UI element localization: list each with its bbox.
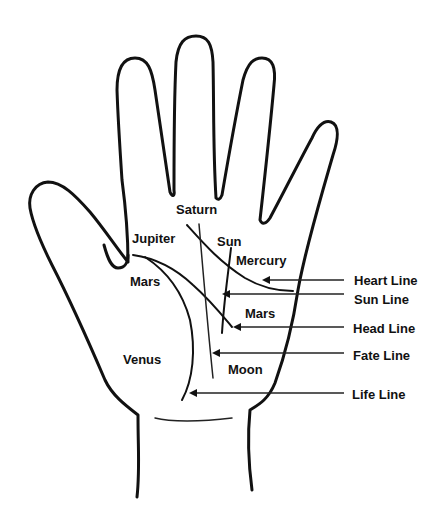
mount-sun-label: Sun (217, 234, 242, 249)
mount-venus-label: Venus (123, 352, 161, 367)
head-line (133, 255, 232, 327)
head-line-pointer (233, 323, 344, 331)
mount-moon-label: Moon (228, 362, 263, 377)
mount-mars-inner-label: Mars (130, 274, 160, 289)
palm-diagram: Saturn Jupiter Sun Mercury Mars Mars Ven… (0, 0, 446, 505)
mount-mars-outer-label: Mars (245, 306, 275, 321)
fate-line-label: Fate Line (353, 348, 410, 363)
mount-jupiter-label: Jupiter (132, 231, 175, 246)
heart-line-label: Heart Line (354, 273, 418, 288)
life-line-label: Life Line (352, 387, 405, 402)
fate-line (199, 224, 213, 378)
wrist-crease (155, 418, 232, 421)
fate-line-pointer (212, 349, 344, 357)
sun-line-label: Sun Line (354, 292, 409, 307)
mount-mercury-label: Mercury (236, 253, 287, 268)
mount-saturn-label: Saturn (176, 202, 217, 217)
hand-outline (30, 36, 338, 497)
head-line-label: Head Line (353, 321, 415, 336)
heart-line-pointer (262, 276, 344, 284)
